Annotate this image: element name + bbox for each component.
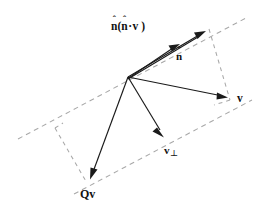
vector-v-perp <box>128 77 164 138</box>
label-v-perp-base: v <box>164 144 170 156</box>
vector-normal-shaft <box>128 48 173 79</box>
label-vector-v: v <box>237 93 243 105</box>
vector-v-perp-arrowhead <box>153 128 165 138</box>
hat-accent-icon: ˆ <box>178 46 181 55</box>
label-normal-n: ˆ n <box>176 51 182 62</box>
vector-v-arrowhead <box>217 93 229 100</box>
vector-qv-arrowhead <box>90 168 98 180</box>
label-reflected-qv: Qv <box>80 188 95 200</box>
guide-projection-to-v <box>209 29 230 100</box>
hat-accent-icon: ˆ <box>113 16 116 25</box>
vector-diagram: ˆ n ( ˆ n ·v ) ˆ n v v⊥ Qv <box>0 0 264 211</box>
label-projection: ˆ n ( ˆ n ·v ) <box>111 21 145 33</box>
guide-lower-parallel <box>74 100 252 194</box>
vector-qv-shaft <box>93 77 128 172</box>
guide-left-corner-to-qv <box>55 128 87 183</box>
vector-v-perp-shaft <box>128 77 160 130</box>
label-projection-n2: ˆ n <box>121 21 127 33</box>
vector-qv <box>90 77 128 180</box>
guide-left-corner-edge <box>55 123 63 128</box>
vector-projection-shaft-secondary <box>128 37 198 79</box>
label-normal: ˆ n <box>176 51 182 62</box>
perpendicular-icon: ⊥ <box>170 149 178 158</box>
vector-v <box>128 77 228 100</box>
hat-accent-icon: ˆ <box>123 16 126 25</box>
label-vector-v-perp: v⊥ <box>164 145 178 158</box>
guide-v-corner-tick <box>214 100 230 105</box>
label-projection-close-paren: ) <box>138 20 145 32</box>
label-projection-n1: ˆ n <box>111 21 117 33</box>
guide-lines <box>18 18 252 194</box>
vector-normal <box>128 44 180 79</box>
vector-projection <box>128 31 206 79</box>
vector-v-shaft <box>128 77 220 96</box>
